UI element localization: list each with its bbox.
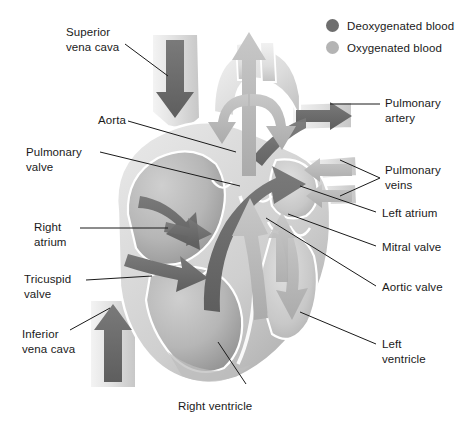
label-tricuspid-valve: Tricuspid valve xyxy=(24,272,71,301)
legend-item-deoxygenated[interactable]: Deoxygenated blood xyxy=(326,19,454,32)
label-inferior-vena-cava: Inferior vena cava xyxy=(22,327,75,356)
label-right-ventricle: Right ventricle xyxy=(178,399,252,414)
legend-item-oxygenated[interactable]: Oxygenated blood xyxy=(326,41,442,54)
legend-dot-oxygenated xyxy=(326,41,339,54)
label-pulmonary-veins: Pulmonary veins xyxy=(385,163,441,192)
legend-label-deoxygenated: Deoxygenated blood xyxy=(347,20,454,32)
label-superior-vena-cava: Superior vena cava xyxy=(66,25,119,54)
label-left-ventricle: Left ventricle xyxy=(382,337,426,366)
label-aorta: Aorta xyxy=(28,113,126,128)
leader-left-ventricle xyxy=(300,312,376,344)
label-right-atrium: Right atrium xyxy=(34,220,67,249)
heart-diagram-figure: Deoxygenated blood Oxygenated blood Supe… xyxy=(0,0,472,433)
label-aortic-valve: Aortic valve xyxy=(382,280,443,295)
label-mitral-valve: Mitral valve xyxy=(382,240,441,255)
legend-dot-deoxygenated xyxy=(326,19,339,32)
label-left-atrium: Left atrium xyxy=(382,206,437,221)
label-pulmonary-artery: Pulmonary artery xyxy=(385,96,441,125)
legend-label-oxygenated: Oxygenated blood xyxy=(347,42,442,54)
label-pulmonary-valve: Pulmonary valve xyxy=(26,145,82,174)
carotid-branch-vessel xyxy=(260,42,276,82)
